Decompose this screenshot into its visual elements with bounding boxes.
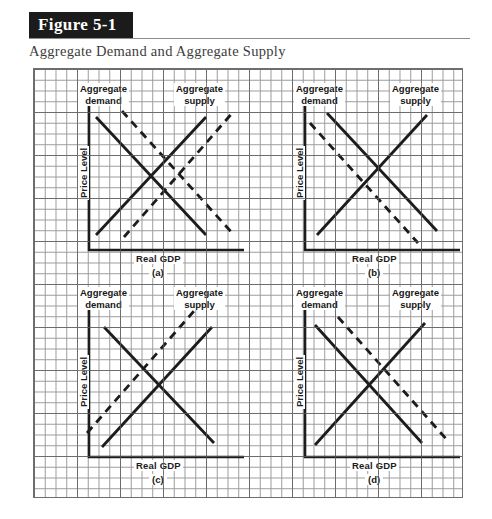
curve-aggregate-supply-b bbox=[317, 115, 427, 235]
label-line-1: Aggregate bbox=[392, 287, 439, 298]
y-axis-label-a: Price Level bbox=[78, 146, 89, 200]
label-line-2: demand bbox=[85, 95, 121, 106]
panel-tag-b: (b) bbox=[365, 267, 383, 278]
label-line-1: Aggregate bbox=[296, 287, 343, 298]
panel-tag-d: (d) bbox=[365, 474, 383, 485]
graph-paper-sheet: Aggregate demand Aggregate supply Price … bbox=[33, 68, 463, 498]
curve-aggregate-demand-b bbox=[327, 113, 437, 231]
panel-c: Aggregate demand Aggregate supply Price … bbox=[54, 287, 249, 487]
panel-a: Aggregate demand Aggregate supply Price … bbox=[54, 75, 249, 280]
label-line-2: demand bbox=[301, 95, 337, 106]
label-aggregate-supply-d: Aggregate supply bbox=[390, 287, 441, 310]
panel-tag-a: (a) bbox=[149, 267, 167, 278]
label-line-2: supply bbox=[184, 299, 215, 310]
axis-lines-d bbox=[305, 305, 460, 457]
label-aggregate-demand-a: Aggregate demand bbox=[78, 83, 129, 106]
label-line-2: supply bbox=[400, 95, 431, 106]
curve-aggregate-supply-shifted-c bbox=[87, 311, 194, 433]
figure-number-badge: Figure 5-1 bbox=[29, 12, 133, 38]
header-divider bbox=[29, 38, 470, 39]
y-axis-label-c: Price Level bbox=[78, 355, 89, 409]
figure-title: Aggregate Demand and Aggregate Supply bbox=[29, 43, 286, 60]
curve-aggregate-demand-shifted-d bbox=[338, 317, 448, 441]
label-aggregate-demand-c: Aggregate demand bbox=[78, 287, 129, 310]
label-aggregate-demand-b: Aggregate demand bbox=[294, 83, 345, 106]
label-line-2: supply bbox=[400, 299, 431, 310]
label-line-1: Aggregate bbox=[296, 83, 343, 94]
label-line-1: Aggregate bbox=[80, 287, 127, 298]
label-line-2: demand bbox=[301, 299, 337, 310]
label-line-1: Aggregate bbox=[176, 287, 223, 298]
y-axis-label-d: Price Level bbox=[294, 355, 305, 409]
label-aggregate-supply-a: Aggregate supply bbox=[174, 83, 225, 106]
label-aggregate-supply-b: Aggregate supply bbox=[390, 83, 441, 106]
label-line-1: Aggregate bbox=[176, 83, 223, 94]
y-axis-label-b: Price Level bbox=[294, 146, 305, 200]
panel-b: Aggregate demand Aggregate supply Price … bbox=[270, 75, 465, 280]
axis-lines-a bbox=[89, 93, 244, 250]
x-axis-label-b: Real GDP bbox=[350, 253, 399, 264]
panel-d: Aggregate demand Aggregate supply Price … bbox=[270, 287, 465, 487]
figure-header: Figure 5-1 Aggregate Demand and Aggregat… bbox=[0, 0, 492, 62]
label-line-1: Aggregate bbox=[80, 83, 127, 94]
x-axis-label-d: Real GDP bbox=[350, 460, 399, 471]
x-axis-label-a: Real GDP bbox=[134, 253, 183, 264]
x-axis-label-c: Real GDP bbox=[134, 460, 183, 471]
panel-tag-c: (c) bbox=[149, 474, 167, 485]
label-line-1: Aggregate bbox=[392, 83, 439, 94]
label-aggregate-demand-d: Aggregate demand bbox=[294, 287, 345, 310]
curve-aggregate-supply-c bbox=[102, 327, 212, 447]
label-line-2: demand bbox=[85, 299, 121, 310]
label-aggregate-supply-c: Aggregate supply bbox=[174, 287, 225, 310]
label-line-2: supply bbox=[184, 95, 215, 106]
